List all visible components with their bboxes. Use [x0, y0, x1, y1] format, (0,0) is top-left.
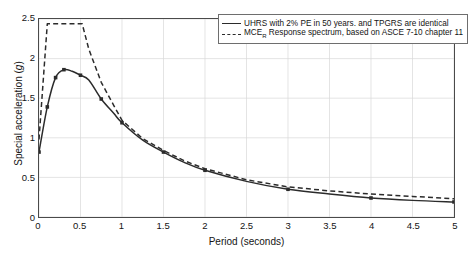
x-tick-label: 1.5: [143, 221, 183, 231]
y-tick-label: 2.5: [0, 13, 35, 23]
x-tick-label: 3.5: [310, 221, 350, 231]
y-tick-label: 0.5: [0, 173, 35, 183]
x-tick-label: 0: [18, 221, 58, 231]
series-layer: [39, 19, 454, 217]
x-tick-label: 4: [352, 221, 392, 231]
legend-item-mcer: MCER Response spectrum, based on ASCE 7-…: [222, 29, 463, 40]
x-tick-label: 4.5: [393, 221, 433, 231]
chart-legend: UHRS with 2% PE in 50 years. and TPGRS a…: [218, 14, 468, 44]
x-tick-label: 2.5: [227, 221, 267, 231]
y-tick-label: 1.5: [0, 93, 35, 103]
legend-label-mcer-rest: Response spectrum, based on ASCE 7-10 ch…: [267, 28, 463, 37]
legend-solid-line-icon: [222, 19, 241, 29]
x-tick-label: 3: [268, 221, 308, 231]
legend-label-mcer: MCER Response spectrum, based on ASCE 7-…: [244, 28, 463, 41]
x-tick-label: 0.5: [60, 221, 100, 231]
plot-area: [38, 18, 455, 218]
legend-label-uhrs: UHRS with 2% PE in 50 years. and TPGRS a…: [244, 19, 449, 29]
y-tick-label: 1: [0, 133, 35, 143]
x-tick-label: 5: [435, 221, 472, 231]
x-axis-title: Period (seconds): [38, 236, 455, 247]
x-tick-label: 1: [101, 221, 141, 231]
legend-label-mcer-base: MCE: [244, 28, 262, 37]
x-tick-label: 2: [185, 221, 225, 231]
y-tick-label: 2: [0, 53, 35, 63]
legend-dashed-line-icon: [222, 30, 241, 40]
